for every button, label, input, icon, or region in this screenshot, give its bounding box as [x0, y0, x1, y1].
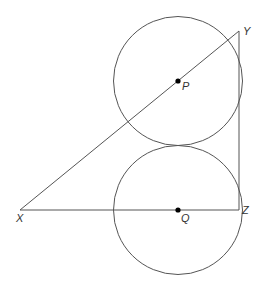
point-q	[175, 207, 180, 212]
segment-xy	[20, 31, 239, 210]
point-p	[175, 78, 180, 83]
label-q: Q	[181, 212, 190, 224]
label-p: P	[182, 80, 190, 92]
label-x: X	[15, 212, 24, 224]
geometry-diagram: P Q X Y Z	[0, 0, 263, 290]
label-y: Y	[243, 25, 251, 37]
label-z: Z	[241, 204, 250, 216]
